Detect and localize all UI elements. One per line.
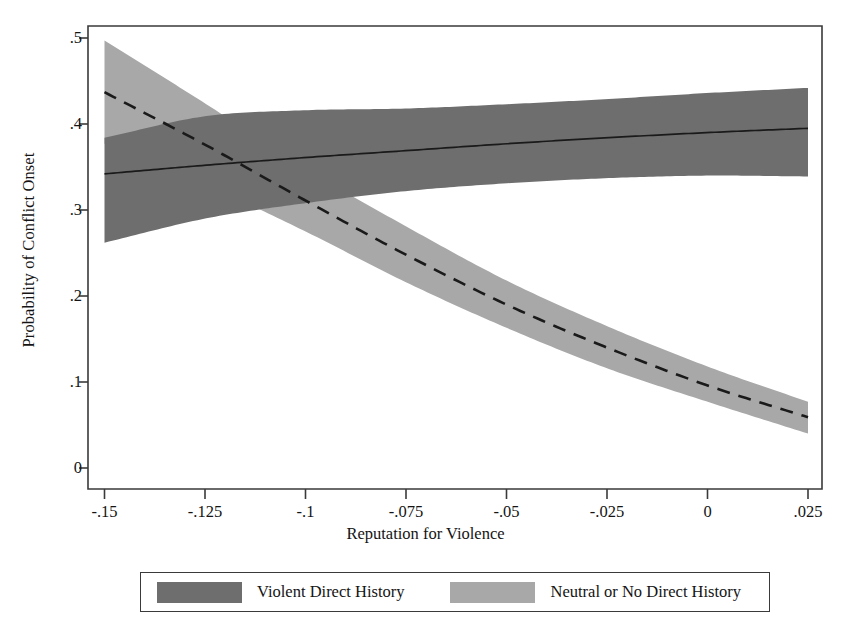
legend-entry-violent-direct-history: Violent Direct History: [141, 573, 404, 611]
legend-swatch-violent: [157, 582, 242, 603]
y-tick-label: .2: [42, 286, 82, 306]
chart-figure: Probability of Conflict Onset 0.1.2.3.4.…: [0, 0, 851, 636]
x-tick-label: -.075: [361, 502, 451, 522]
x-tick-label: -.125: [160, 502, 250, 522]
x-tick-label: -.05: [462, 502, 552, 522]
x-tick-label: 0: [663, 502, 753, 522]
y-tick-label: 0: [42, 458, 82, 478]
x-tick-label: -.1: [261, 502, 351, 522]
legend-label-violent: Violent Direct History: [257, 582, 404, 602]
x-axis-ticks: [105, 489, 809, 499]
chart-legend: Violent Direct History Neutral or No Dir…: [140, 572, 770, 612]
legend-swatch-neutral: [450, 582, 535, 603]
legend-label-neutral: Neutral or No Direct History: [550, 582, 741, 602]
y-tick-label: .4: [42, 114, 82, 134]
y-tick-label: .1: [42, 372, 82, 392]
y-tick-label: .5: [42, 28, 82, 48]
y-tick-label: .3: [42, 200, 82, 220]
x-tick-label: -.15: [60, 502, 150, 522]
x-axis-label: Reputation for Violence: [0, 524, 851, 544]
x-tick-label: .025: [763, 502, 851, 522]
x-tick-label: -.025: [562, 502, 652, 522]
y-axis-label: Probability of Conflict Onset: [19, 153, 39, 348]
legend-entry-neutral-no-direct-history: Neutral or No Direct History: [434, 573, 741, 611]
y-axis-tick-labels: 0.1.2.3.4.5: [38, 0, 82, 500]
